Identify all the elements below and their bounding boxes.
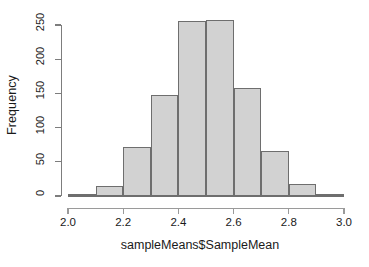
histogram-bar bbox=[151, 95, 179, 196]
x-axis-line bbox=[68, 208, 344, 209]
x-tick-mark bbox=[343, 208, 344, 214]
histogram-bar bbox=[178, 21, 206, 196]
x-tick-label: 2.4 bbox=[161, 216, 195, 228]
baseline-rule bbox=[68, 195, 344, 197]
histogram-plot: Frequency 050100150200250 2.02.22.42.62.… bbox=[0, 0, 369, 267]
x-tick-label: 3.0 bbox=[327, 216, 361, 228]
x-tick-label: 2.8 bbox=[272, 216, 306, 228]
histogram-bar bbox=[123, 147, 151, 196]
x-tick-mark bbox=[67, 208, 68, 214]
x-tick-mark bbox=[123, 208, 124, 214]
histogram-bar bbox=[234, 88, 262, 196]
x-tick-mark bbox=[178, 208, 179, 214]
histogram-bar bbox=[261, 151, 289, 196]
histogram-bar bbox=[206, 20, 234, 196]
x-tick-label: 2.2 bbox=[106, 216, 140, 228]
x-axis-title: sampleMeans$SampleMean bbox=[40, 238, 360, 252]
x-tick-label: 2.6 bbox=[217, 216, 251, 228]
x-tick-label: 2.0 bbox=[51, 216, 85, 228]
x-tick-mark bbox=[288, 208, 289, 214]
x-tick-mark bbox=[233, 208, 234, 214]
